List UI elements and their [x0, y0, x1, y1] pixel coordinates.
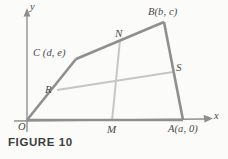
- point-label-R: R: [45, 84, 52, 95]
- point-label-M: M: [107, 124, 116, 135]
- point-label-C: C (d, e): [33, 48, 66, 59]
- point-label-B: B(b, c): [148, 7, 177, 18]
- point-label-S: S: [176, 62, 182, 73]
- figure-caption: FIGURE 10: [8, 137, 73, 149]
- point-label-A: A(a, 0): [168, 124, 198, 135]
- figure-container: B(b, c) C (d, e) A(a, 0) N M R S O x y F…: [0, 0, 228, 159]
- x-axis-label: x: [214, 111, 219, 122]
- x-axis-arrowhead: [204, 115, 214, 123]
- y-axis-label: y: [30, 2, 35, 13]
- point-label-N: N: [115, 28, 122, 39]
- origin-label: O: [18, 122, 26, 133]
